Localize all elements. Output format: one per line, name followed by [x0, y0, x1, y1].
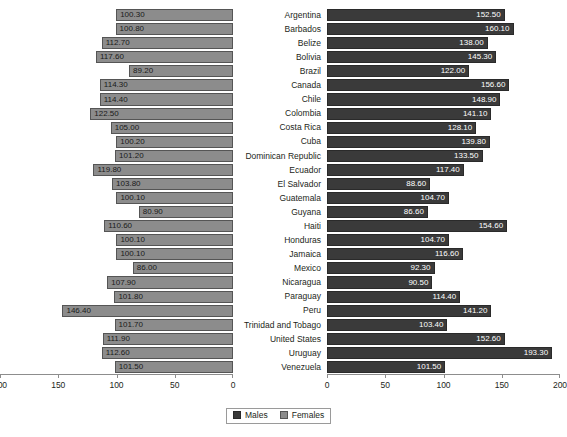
bar-males[interactable]: 139.80 — [327, 136, 490, 148]
females-axis-tick — [58, 374, 59, 378]
bar-males[interactable]: 141.20 — [327, 305, 491, 317]
bar-females[interactable]: 101.80 — [114, 291, 233, 303]
bar-females[interactable]: 112.70 — [102, 37, 233, 49]
bar-males[interactable]: 92.30 — [327, 262, 435, 274]
bar-males[interactable]: 101.50 — [327, 361, 445, 373]
chart-row: 122.50Colombia141.10 — [0, 107, 560, 121]
category-label: Costa Rica — [279, 123, 321, 132]
bar-males[interactable]: 148.90 — [327, 93, 500, 105]
category-label-cell: Mexico — [233, 261, 327, 275]
bar-males[interactable]: 193.30 — [327, 347, 552, 359]
females-bar-cell: 80.90 — [0, 205, 233, 219]
bar-males[interactable]: 128.10 — [327, 122, 476, 134]
bar-males[interactable]: 86.60 — [327, 206, 428, 218]
category-label-cell: Honduras — [233, 233, 327, 247]
bar-females[interactable]: 105.00 — [111, 122, 233, 134]
bar-males[interactable]: 117.40 — [327, 164, 464, 176]
legend-item[interactable]: Females — [280, 411, 325, 420]
chart-row: 100.20Cuba139.80 — [0, 135, 560, 149]
bar-females[interactable]: 101.50 — [115, 361, 233, 373]
females-bar-cell: 111.90 — [0, 332, 233, 346]
bar-females[interactable]: 122.50 — [90, 108, 233, 120]
bar-females[interactable]: 110.60 — [104, 220, 233, 232]
bar-females[interactable]: 100.10 — [116, 192, 233, 204]
males-axis-tick — [385, 374, 386, 378]
bar-males[interactable]: 160.10 — [327, 23, 514, 35]
males-bar-cell: 90.50 — [327, 275, 560, 289]
category-label-cell: Argentina — [233, 8, 327, 22]
bar-females[interactable]: 100.10 — [116, 248, 233, 260]
bar-females[interactable]: 112.60 — [102, 347, 233, 359]
bar-males[interactable]: 88.60 — [327, 178, 430, 190]
males-axis-tick — [327, 374, 328, 378]
chart-row: 100.30Argentina152.50 — [0, 8, 560, 22]
bar-value-label-males: 139.80 — [461, 138, 488, 146]
bar-females[interactable]: 107.90 — [107, 276, 233, 288]
bar-males[interactable]: 90.50 — [327, 276, 432, 288]
category-label-cell: Venezuela — [233, 360, 327, 374]
category-label: Dominican Republic — [245, 152, 321, 161]
females-axis-tick — [232, 374, 233, 378]
males-axis-tick-label: 200 — [553, 381, 567, 390]
females-bar-cell: 119.80 — [0, 163, 233, 177]
legend-item[interactable]: Males — [233, 411, 268, 420]
bar-females[interactable]: 103.80 — [112, 178, 233, 190]
bar-males[interactable]: 114.40 — [327, 291, 460, 303]
bar-value-label-females: 101.70 — [116, 321, 143, 329]
category-label: Belize — [298, 39, 321, 48]
females-bar-cell: 146.40 — [0, 304, 233, 318]
bar-females[interactable]: 100.30 — [116, 9, 233, 21]
females-bar-cell: 101.50 — [0, 360, 233, 374]
bar-females[interactable]: 100.80 — [116, 23, 233, 35]
males-bar-cell: 141.20 — [327, 304, 560, 318]
bar-females[interactable]: 114.40 — [100, 93, 233, 105]
bar-value-label-males: 138.00 — [459, 39, 486, 47]
category-label: El Salvador — [278, 180, 321, 189]
females-bar-cell: 100.10 — [0, 233, 233, 247]
bar-males[interactable]: 154.60 — [327, 220, 507, 232]
bar-females[interactable]: 100.10 — [116, 234, 233, 246]
females-bar-cell: 112.70 — [0, 36, 233, 50]
males-bar-cell: 138.00 — [327, 36, 560, 50]
category-label-cell: Brazil — [233, 64, 327, 78]
bar-males[interactable]: 141.10 — [327, 108, 491, 120]
males-bar-cell: 86.60 — [327, 205, 560, 219]
bar-males[interactable]: 145.30 — [327, 51, 496, 63]
bar-females[interactable]: 114.30 — [100, 79, 233, 91]
bar-females[interactable]: 117.60 — [96, 51, 233, 63]
chart-row: 86.00Mexico92.30 — [0, 261, 560, 275]
category-label-cell: Uruguay — [233, 346, 327, 360]
bar-males[interactable]: 122.00 — [327, 65, 469, 77]
bar-females[interactable]: 101.70 — [115, 319, 233, 331]
males-bar-cell: 88.60 — [327, 177, 560, 191]
bar-females[interactable]: 101.20 — [115, 150, 233, 162]
bar-males[interactable]: 103.40 — [327, 319, 447, 331]
bar-value-label-females: 112.70 — [103, 39, 130, 47]
bar-females[interactable]: 89.20 — [129, 65, 233, 77]
x-axis-females: 200150100500 — [0, 374, 233, 396]
category-label: Guatemala — [279, 194, 321, 203]
bar-males[interactable]: 104.70 — [327, 234, 449, 246]
chart-row: 117.60Bolivia145.30 — [0, 50, 560, 64]
bar-females[interactable]: 119.80 — [93, 164, 233, 176]
category-label: Bolivia — [296, 53, 321, 62]
bar-males[interactable]: 156.60 — [327, 79, 509, 91]
males-axis-tick-label: 150 — [495, 381, 509, 390]
bar-value-label-males: 104.70 — [421, 236, 448, 244]
bar-females[interactable]: 100.20 — [116, 136, 233, 148]
bar-females[interactable]: 86.00 — [133, 262, 233, 274]
bar-males[interactable]: 133.50 — [327, 150, 483, 162]
chart-plot-area: 100.30Argentina152.50100.80Barbados160.1… — [0, 8, 560, 374]
bar-males[interactable]: 104.70 — [327, 192, 449, 204]
bar-value-label-males: 193.30 — [524, 349, 551, 357]
bar-males[interactable]: 138.00 — [327, 37, 488, 49]
bar-females[interactable]: 80.90 — [139, 206, 233, 218]
bar-females[interactable]: 146.40 — [62, 305, 233, 317]
chart-row: 101.70Trinidad and Tobago103.40 — [0, 318, 560, 332]
bar-males[interactable]: 116.60 — [327, 248, 463, 260]
males-bar-cell: 101.50 — [327, 360, 560, 374]
bar-males[interactable]: 152.50 — [327, 9, 505, 21]
bar-females[interactable]: 111.90 — [103, 333, 233, 345]
bar-value-label-females: 112.60 — [103, 349, 130, 357]
bar-males[interactable]: 152.60 — [327, 333, 505, 345]
